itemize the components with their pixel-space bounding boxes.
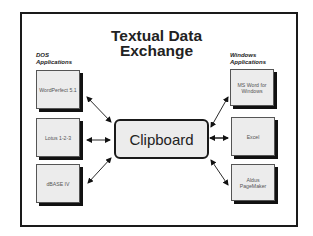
arrow-msword — [211, 97, 228, 127]
connector-arrows — [0, 0, 313, 236]
arrow-dbase — [88, 158, 111, 183]
arrow-pagemaker — [211, 160, 228, 185]
arrow-wordperfect — [87, 97, 111, 122]
